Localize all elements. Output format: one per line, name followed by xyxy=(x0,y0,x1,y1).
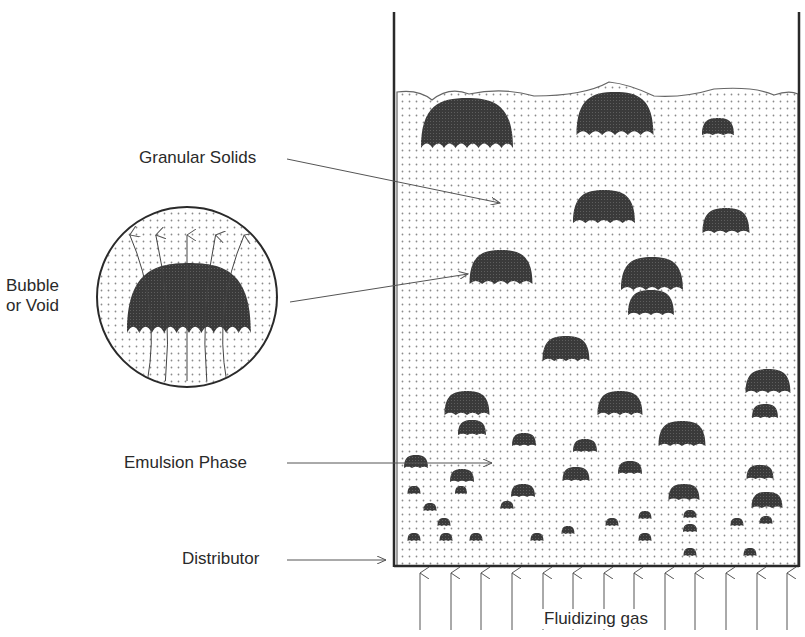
label-bubble-line1: Bubble xyxy=(6,276,59,296)
label-emulsion-phase: Emulsion Phase xyxy=(124,453,247,473)
label-bubble-line2: or Void xyxy=(6,296,59,316)
label-granular-solids: Granular Solids xyxy=(139,148,256,168)
label-fluidizing-gas: Fluidizing gas xyxy=(541,609,651,629)
label-bubble-or-void: Bubble or Void xyxy=(6,276,59,315)
diagram-canvas xyxy=(0,0,805,637)
bubble-inset-circle xyxy=(97,207,277,387)
fluidized-bed-diagram: Granular Solids Bubble or Void Emulsion … xyxy=(0,0,805,637)
fluid-bed-emulsion xyxy=(397,82,798,566)
label-distributor: Distributor xyxy=(182,549,259,569)
bed-surface xyxy=(397,82,798,566)
